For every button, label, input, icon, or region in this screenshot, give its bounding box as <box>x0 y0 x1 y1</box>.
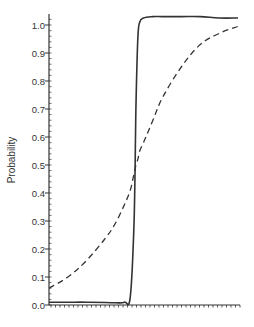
y-tick-label: 1.0 <box>32 20 45 31</box>
y-tick-label: 0.1 <box>32 272 45 283</box>
y-tick-label: 0.3 <box>32 216 45 227</box>
y-tick-label: 0.5 <box>32 160 45 171</box>
y-axis-label: Probability <box>6 137 17 184</box>
y-tick-label: 0.7 <box>32 104 45 115</box>
y-tick-label: 0.2 <box>32 244 45 255</box>
dashed-series-line <box>49 26 238 288</box>
y-tick-label: 0.8 <box>32 76 45 87</box>
y-tick-label: 0.6 <box>32 132 45 143</box>
y-tick-label: 0.9 <box>32 48 45 59</box>
series <box>49 16 238 304</box>
axes <box>49 14 240 305</box>
y-tick-label: 0.0 <box>32 300 45 311</box>
probability-chart: 0.00.10.20.30.40.50.60.70.80.91.0 Probab… <box>0 0 254 327</box>
solid-series-line <box>49 16 238 304</box>
y-tick-label: 0.4 <box>32 188 45 199</box>
